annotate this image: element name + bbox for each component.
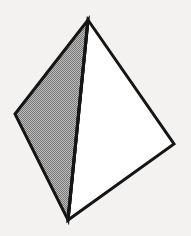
- figure-canvas: [0, 0, 191, 236]
- tetrahedron-svg: [0, 0, 191, 236]
